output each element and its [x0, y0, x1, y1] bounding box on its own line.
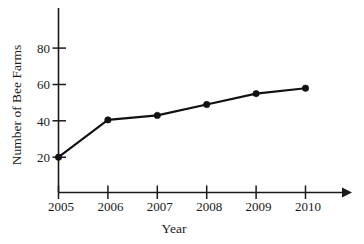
data-point-2005	[55, 154, 61, 160]
data-point-2007	[154, 112, 160, 118]
x-tick-label-2008: 2008	[196, 199, 222, 214]
x-tick-label-2009: 2009	[246, 199, 272, 214]
x-axis-title: Year	[162, 221, 187, 236]
data-point-2008	[204, 101, 210, 107]
y-tick-label-40: 40	[37, 114, 50, 129]
y-tick-label-60: 60	[37, 77, 50, 92]
x-tick-label-2007: 2007	[147, 199, 174, 214]
y-tick-label-80: 80	[37, 41, 50, 56]
chart-canvas: 20 40 60 80 2005 2006 2007 2008 2009 201…	[0, 0, 364, 244]
x-tick-label-2006: 2006	[97, 199, 124, 214]
x-tick-label-2010: 2010	[295, 199, 321, 214]
data-point-2010	[302, 85, 308, 91]
data-point-2009	[253, 90, 259, 96]
line-chart-figure: 20 40 60 80 2005 2006 2007 2008 2009 201…	[0, 0, 364, 244]
y-tick-label-20: 20	[37, 150, 50, 165]
data-point-2006	[105, 117, 111, 123]
y-axis-title: Number of Bee Farms	[9, 45, 24, 165]
x-tick-label-2005: 2005	[48, 199, 74, 214]
